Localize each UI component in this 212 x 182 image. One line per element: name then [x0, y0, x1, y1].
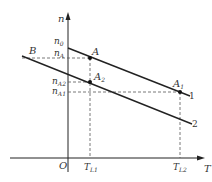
na-label: nA [54, 48, 65, 59]
tl1-label: TL1 [84, 162, 98, 173]
point-a2 [88, 80, 92, 84]
point-a-label: A [91, 46, 99, 57]
tl2-label: TL2 [173, 162, 187, 173]
point-b-label: B [28, 45, 36, 56]
point-a1-label: A1 [172, 78, 184, 90]
line-2-label: 2 [192, 119, 198, 129]
t-axis-label: T [204, 163, 212, 174]
origin-label: O [59, 160, 67, 171]
n-axis-arrow-icon [66, 12, 71, 20]
point-a1 [178, 90, 182, 94]
line-1-label: 1 [189, 91, 195, 101]
t-axis-arrow-icon [197, 156, 205, 161]
na1-label: nA1 [52, 86, 66, 97]
n0-label: n0 [54, 36, 64, 47]
characteristic-line-1 [68, 48, 190, 96]
characteristic-line-2 [22, 56, 192, 124]
n-axis-label: n [58, 13, 64, 24]
speed-torque-diagram: n T O n0 nA nA2 nA1 TL1 TL2 A A2 A1 B 1 … [0, 0, 212, 182]
point-a2-label: A2 [93, 71, 105, 83]
